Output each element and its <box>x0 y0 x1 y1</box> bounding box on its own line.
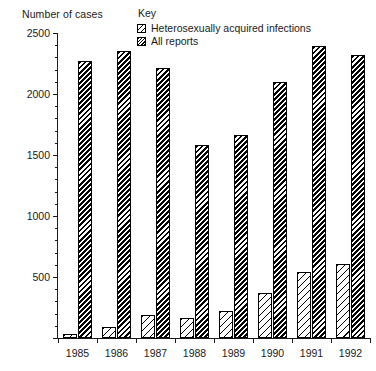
y-axis-tick-minor <box>55 289 58 290</box>
y-axis-tick-minor <box>55 131 58 132</box>
x-axis-tick <box>370 338 371 343</box>
y-axis-label: 1000 <box>27 210 50 222</box>
x-axis-tick <box>292 338 293 343</box>
bar-1987-all-reports <box>156 68 170 338</box>
y-axis-tick-minor <box>55 301 58 302</box>
bar-1991-all-reports <box>312 46 326 338</box>
y-axis-title: Number of cases <box>22 8 103 20</box>
y-axis-line <box>57 33 58 339</box>
bar-1990-all-reports <box>273 82 287 338</box>
bar-1989-hetero <box>219 311 233 338</box>
y-axis-tick-minor <box>55 143 58 144</box>
legend-title: Key <box>138 7 311 19</box>
y-axis-tick-minor <box>55 118 58 119</box>
bar-1988-hetero <box>180 318 194 338</box>
bar-1986-hetero <box>102 327 116 338</box>
y-axis-tick-minor <box>55 314 58 315</box>
y-axis-tick-minor <box>55 57 58 58</box>
bar-1992-all-reports <box>351 55 365 338</box>
bar-1988-all-reports <box>195 145 209 338</box>
bar-1990-hetero <box>258 293 272 338</box>
x-axis-tick <box>58 338 59 343</box>
x-axis-tick <box>136 338 137 343</box>
y-axis-tick-minor <box>55 326 58 327</box>
legend-swatch-hetero-icon <box>137 24 146 33</box>
x-axis-tick <box>331 338 332 343</box>
bar-1985-hetero <box>63 334 77 338</box>
y-axis-tick-minor <box>55 82 58 83</box>
x-axis-label: 1990 <box>261 347 284 359</box>
y-axis-tick-minor <box>55 192 58 193</box>
x-axis-label: 1986 <box>105 347 128 359</box>
x-axis-label: 1988 <box>183 347 206 359</box>
y-axis-tick-minor <box>55 45 58 46</box>
y-axis-tick-minor <box>55 253 58 254</box>
x-axis-label: 1992 <box>339 347 362 359</box>
x-axis-label: 1991 <box>300 347 323 359</box>
bar-1989-all-reports <box>234 135 248 338</box>
x-axis-tick <box>214 338 215 343</box>
x-axis-label: 1985 <box>66 347 89 359</box>
y-axis-label: 500 <box>32 271 50 283</box>
y-axis-tick-major <box>53 155 58 156</box>
y-axis-tick-major <box>53 216 58 217</box>
y-axis-tick-minor <box>55 167 58 168</box>
y-axis-tick-minor <box>55 106 58 107</box>
plot-area: 5001000150020002500 19851986198719881989… <box>58 33 370 338</box>
y-axis-tick-major <box>53 94 58 95</box>
x-axis-tick <box>97 338 98 343</box>
bar-1986-all-reports <box>117 51 131 338</box>
x-axis-label: 1989 <box>222 347 245 359</box>
y-axis-tick-minor <box>55 70 58 71</box>
y-axis-tick-minor <box>55 228 58 229</box>
y-axis-tick-minor <box>55 179 58 180</box>
bar-1985-all-reports <box>78 61 92 338</box>
x-axis-label: 1987 <box>144 347 167 359</box>
bar-1992-hetero <box>336 264 350 338</box>
y-axis-tick-minor <box>55 240 58 241</box>
x-axis-tick <box>253 338 254 343</box>
y-axis-tick-minor <box>55 204 58 205</box>
bar-1987-hetero <box>141 315 155 338</box>
legend-label-hetero: Heterosexually acquired infections <box>151 23 311 34</box>
y-axis-label: 1500 <box>27 149 50 161</box>
y-axis-label: 2500 <box>27 27 50 39</box>
y-axis-label: 2000 <box>27 88 50 100</box>
y-axis-tick-major <box>53 33 58 34</box>
bar-1991-hetero <box>297 272 311 338</box>
bar-chart: Number of cases Key Heterosexually acqui… <box>0 0 376 371</box>
y-axis-tick-major <box>53 277 58 278</box>
x-axis-tick <box>175 338 176 343</box>
y-axis-tick-minor <box>55 265 58 266</box>
